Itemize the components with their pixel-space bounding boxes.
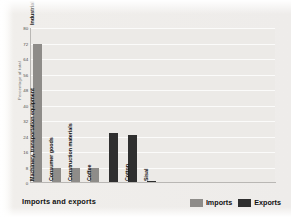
bar-slot (109, 28, 118, 183)
bar-label: Consumer goods (48, 137, 54, 181)
bar-label: Machinery, transportation equipment (29, 88, 35, 181)
y-tick-label: 0 (14, 181, 28, 186)
y-axis-title: Percentage of total (17, 36, 22, 126)
scan-left-fade (0, 0, 12, 217)
bar-slot: Construction materials (71, 28, 80, 183)
bar-slot: Machinery, transportation equipmentIndus… (33, 28, 42, 183)
legend-label-imports: Imports (206, 198, 232, 207)
legend-swatch-imports (190, 199, 203, 207)
chart-caption: Imports and exports (22, 197, 96, 206)
plot-area: Machinery, transportation equipmentIndus… (30, 28, 275, 183)
legend-item-imports: Imports (190, 198, 232, 207)
bar-label: Construction materials (67, 123, 73, 181)
bar-slot: Sisal (147, 28, 156, 183)
bar-slot: Consumer goods (52, 28, 61, 183)
chart-figure: Machinery, transportation equipmentIndus… (0, 0, 291, 217)
legend-label-exports: Exports (254, 198, 281, 207)
scan-bottom-fade (0, 207, 291, 217)
chart-legend: Imports Exports (190, 198, 281, 207)
legend-item-exports: Exports (238, 198, 281, 207)
y-tick-label: 80 (14, 26, 28, 31)
bar-slot: Coffee (90, 28, 99, 183)
x-axis-line (30, 182, 276, 183)
bar-slot: Cotton (128, 28, 137, 183)
scan-top-fade (0, 0, 291, 14)
y-tick-label: 24 (14, 134, 28, 139)
legend-swatch-exports (238, 199, 251, 207)
y-tick-label: 16 (14, 150, 28, 155)
bar-label: Sisal (143, 169, 149, 181)
y-tick-label: 8 (14, 165, 28, 170)
bar-label: Cotton (124, 164, 130, 181)
bar-label: Coffee (86, 165, 92, 181)
bar (109, 133, 118, 183)
